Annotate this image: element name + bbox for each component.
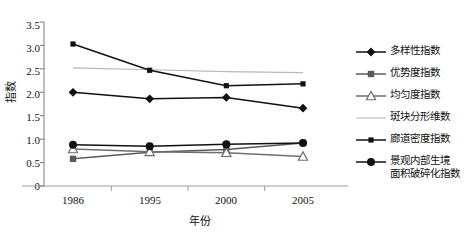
data-point [299, 104, 308, 113]
legend-item-label: 多样性指数 [390, 44, 440, 57]
series-3 [73, 68, 303, 73]
small-square-marker-icon [356, 133, 386, 147]
legend-item-diversity: 多样性指数 [356, 44, 468, 59]
legend-item-dominance: 优势度指数 [356, 66, 468, 81]
legend-item-label: 均匀度指数 [390, 88, 440, 101]
data-series-layer [68, 41, 307, 162]
series-5 [69, 139, 307, 150]
y-axis-ticks [40, 22, 44, 186]
data-point [300, 81, 305, 86]
series-0 [69, 88, 308, 113]
data-point [224, 83, 229, 88]
circle-marker-icon [356, 155, 386, 169]
legend-item-fragmentation: 景观内部生境 面积破碎化指数 [356, 154, 468, 182]
legend-item-evenness: 均匀度指数 [356, 88, 468, 103]
data-point [145, 94, 154, 103]
data-point [69, 88, 78, 97]
legend-item-label: 景观内部生境 面积破碎化指数 [390, 154, 460, 180]
data-point [222, 93, 231, 102]
chart-legend: 多样性指数 优势度指数 均匀度指数 斑块分形维数 廊道密度指数 景观内部生境 面… [356, 44, 468, 189]
data-point [222, 140, 230, 148]
line-marker-icon [356, 111, 386, 125]
x-axis-ticks [111, 186, 264, 191]
diamond-marker-icon [356, 45, 386, 59]
data-point [70, 156, 76, 162]
legend-item-label: 优势度指数 [390, 66, 440, 79]
data-point [69, 141, 77, 149]
square-marker-icon [356, 67, 386, 81]
line-chart-figure: 指数 3.5 3.0 2.5 2.0 1.5 1.0 0.5 0 1986 19… [0, 0, 468, 235]
legend-item-label: 廊道密度指数 [390, 132, 450, 145]
data-point [147, 68, 152, 73]
legend-item-label: 斑块分形维数 [390, 110, 450, 123]
legend-item-fractal: 斑块分形维数 [356, 110, 468, 125]
data-point [70, 41, 75, 46]
data-point [299, 139, 307, 147]
data-point [146, 142, 154, 150]
series-4 [70, 41, 305, 88]
series-2 [68, 144, 307, 160]
legend-item-corridor: 廊道密度指数 [356, 132, 468, 147]
triangle-marker-icon [356, 89, 386, 103]
